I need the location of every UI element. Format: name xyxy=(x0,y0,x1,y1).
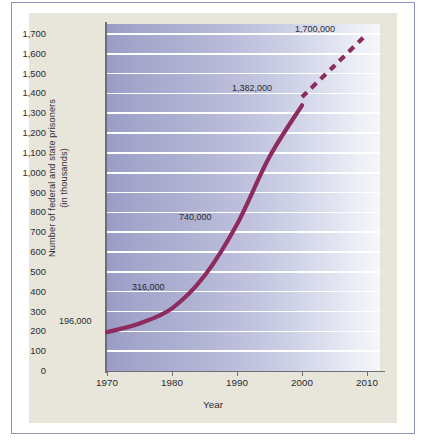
y-axis-line xyxy=(105,22,107,373)
gridline xyxy=(107,33,380,35)
data-label: 316,000 xyxy=(132,282,165,292)
y-tick-label: 100 xyxy=(0,345,46,356)
gridline xyxy=(107,132,380,134)
y-tick-label: 800 xyxy=(0,206,46,217)
data-label: 1,700,000 xyxy=(295,24,335,34)
gridline xyxy=(107,251,380,253)
plot-area xyxy=(107,24,380,371)
y-tick-label: 1,600 xyxy=(0,48,46,59)
gridline xyxy=(107,192,380,194)
y-tick-label: 1,500 xyxy=(0,68,46,79)
y-axis-title-line1: Number of federal and state prisoners xyxy=(47,99,57,257)
gridline xyxy=(107,350,380,352)
x-tick-label: 2010 xyxy=(337,377,397,388)
x-tick xyxy=(302,371,303,376)
data-label: 196,000 xyxy=(59,316,92,326)
gridline xyxy=(107,271,380,273)
x-tick-label: 1990 xyxy=(207,377,267,388)
y-tick-label: 900 xyxy=(0,187,46,198)
gridline xyxy=(107,311,380,313)
gridline xyxy=(107,152,380,154)
y-tick-label: 1,700 xyxy=(0,28,46,39)
gridline xyxy=(107,112,380,114)
x-tick-label: 1970 xyxy=(77,377,137,388)
y-tick-label: 600 xyxy=(0,246,46,257)
figure-panel: Number of federal and state prisoners (i… xyxy=(29,13,397,423)
data-label: 740,000 xyxy=(179,212,212,222)
x-tick xyxy=(367,371,368,376)
y-tick-label: 1,000 xyxy=(0,167,46,178)
x-tick-label: 1980 xyxy=(142,377,202,388)
gridline xyxy=(107,73,380,75)
y-axis-title-line2: (in thousands) xyxy=(59,88,71,268)
x-axis-line xyxy=(105,371,385,372)
gridline xyxy=(107,331,380,333)
data-label: 1,382,000 xyxy=(232,83,272,93)
y-tick-label: 0 xyxy=(0,365,46,376)
y-tick-label: 1,200 xyxy=(0,127,46,138)
y-tick-label: 300 xyxy=(0,306,46,317)
gridline xyxy=(107,231,380,233)
x-tick xyxy=(107,371,108,376)
figure-frame: Number of federal and state prisoners (i… xyxy=(11,2,415,434)
y-tick-label: 400 xyxy=(0,286,46,297)
x-tick-label: 2000 xyxy=(272,377,332,388)
y-tick-label: 200 xyxy=(0,325,46,336)
gridline xyxy=(107,53,380,55)
x-tick xyxy=(237,371,238,376)
x-tick xyxy=(172,371,173,376)
y-tick-label: 1,400 xyxy=(0,87,46,98)
gridline xyxy=(107,212,380,214)
y-tick-label: 1,100 xyxy=(0,147,46,158)
gridline xyxy=(107,172,380,174)
y-tick-label: 700 xyxy=(0,226,46,237)
y-axis-title: Number of federal and state prisoners (i… xyxy=(47,88,77,268)
x-axis-title: Year xyxy=(29,399,397,410)
y-tick-label: 500 xyxy=(0,266,46,277)
y-tick-label: 1,300 xyxy=(0,107,46,118)
